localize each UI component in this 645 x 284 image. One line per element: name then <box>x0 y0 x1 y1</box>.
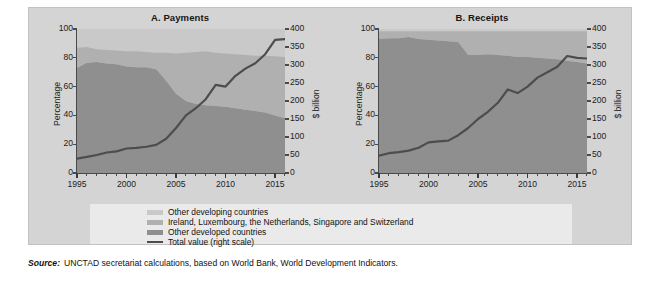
y-axis-tick-mark <box>375 86 379 87</box>
x-axis-tick-label: 2005 <box>468 179 487 189</box>
y-axis-tick-label: 60 <box>365 82 375 91</box>
chart-panel-a: A. Payments Percentage $ billion 0204060… <box>29 8 331 200</box>
area-series <box>379 29 587 31</box>
x-axis-major-tick <box>378 173 379 178</box>
x-axis-tick-label: 2015 <box>266 179 285 189</box>
legend-line-swatch <box>147 241 163 243</box>
x-axis-minor-tick <box>156 173 157 176</box>
x-axis-major-tick <box>428 173 429 178</box>
y2-axis-tick-mark <box>587 64 591 65</box>
x-axis-minor-tick <box>517 173 518 176</box>
y2-axis-tick-mark <box>587 172 591 173</box>
y-axis-tick-label: 40 <box>63 110 73 119</box>
source-text: UNCTAD secretariat calculations, based o… <box>64 258 398 268</box>
legend-item: Total value (right scale) <box>147 238 413 247</box>
x-axis-major-tick <box>225 173 226 178</box>
y2-axis-tick-label: 0 <box>290 168 295 177</box>
y2-axis-tick-mark <box>285 100 289 101</box>
panel-a-y2-axis-title: $ billion <box>310 89 320 118</box>
y2-axis-tick-label: 0 <box>592 168 597 177</box>
x-axis-minor-tick <box>205 173 206 176</box>
x-axis-minor-tick <box>265 173 266 176</box>
panel-a-title: A. Payments <box>29 12 331 23</box>
x-axis-minor-tick <box>116 173 117 176</box>
x-axis-minor-tick <box>96 173 97 176</box>
y2-axis-tick-label: 200 <box>592 96 606 105</box>
panel-b-y-axis-title: Percentage <box>354 82 364 126</box>
x-axis-minor-tick <box>537 173 538 176</box>
y2-axis-tick-label: 300 <box>290 60 304 69</box>
x-axis-major-tick <box>76 173 77 178</box>
panel-a-plot-area: 0204060801000501001502002503003504001995… <box>76 29 285 174</box>
y2-axis-tick-label: 100 <box>290 132 304 141</box>
legend-color-swatch <box>147 230 163 236</box>
y-axis-tick-label: 100 <box>59 24 73 33</box>
y2-axis-tick-mark <box>285 28 289 29</box>
x-axis-tick-label: 1995 <box>67 179 86 189</box>
y2-axis-tick-mark <box>285 64 289 65</box>
x-axis-minor-tick <box>547 173 548 176</box>
x-axis-minor-tick <box>255 173 256 176</box>
panel-a-y-axis-title: Percentage <box>52 82 62 126</box>
panel-a-series-canvas <box>77 29 285 173</box>
y2-axis-tick-mark <box>285 46 289 47</box>
y2-axis-tick-mark <box>587 46 591 47</box>
panel-b-plot-area: 0204060801000501001502002503003504001995… <box>378 29 587 174</box>
x-axis-minor-tick <box>195 173 196 176</box>
y2-axis-tick-label: 150 <box>290 114 304 123</box>
y2-axis-tick-label: 400 <box>290 24 304 33</box>
x-axis-minor-tick <box>408 173 409 176</box>
legend-item: Other developing countries <box>147 208 413 217</box>
x-axis-minor-tick <box>458 173 459 176</box>
y2-axis-tick-mark <box>587 118 591 119</box>
legend-color-swatch <box>147 210 163 216</box>
y2-axis-tick-label: 350 <box>592 42 606 51</box>
x-axis-minor-tick <box>106 173 107 176</box>
panel-b-series-canvas <box>379 29 587 173</box>
y2-axis-tick-label: 50 <box>592 150 602 159</box>
x-axis-minor-tick <box>418 173 419 176</box>
y2-axis-tick-label: 350 <box>290 42 304 51</box>
legend-item: Other developed countries <box>147 228 413 237</box>
x-axis-tick-label: 2000 <box>117 179 136 189</box>
x-axis-minor-tick <box>388 173 389 176</box>
x-axis-major-tick <box>175 173 176 178</box>
x-axis-tick-label: 2010 <box>518 179 537 189</box>
x-axis-minor-tick <box>507 173 508 176</box>
y2-axis-tick-mark <box>587 100 591 101</box>
legend-item: Ireland, Luxembourg, the Netherlands, Si… <box>147 218 413 227</box>
x-axis-tick-label: 2000 <box>419 179 438 189</box>
x-axis-minor-tick <box>497 173 498 176</box>
y2-axis-tick-label: 300 <box>592 60 606 69</box>
y-axis-tick-label: 20 <box>365 139 375 148</box>
y-axis-tick-label: 80 <box>365 53 375 62</box>
y-axis-tick-mark <box>73 57 77 58</box>
source-label: Source: <box>28 258 60 268</box>
y-axis-tick-mark <box>73 28 77 29</box>
x-axis-minor-tick <box>284 173 285 176</box>
x-axis-minor-tick <box>586 173 587 176</box>
y-axis-tick-label: 40 <box>365 110 375 119</box>
y2-axis-tick-mark <box>587 136 591 137</box>
x-axis-minor-tick <box>398 173 399 176</box>
y2-axis-tick-mark <box>587 154 591 155</box>
y-axis-tick-label: 20 <box>63 139 73 148</box>
y-axis-tick-mark <box>375 28 379 29</box>
y-axis-tick-label: 100 <box>361 24 375 33</box>
legend-item-label: Other developed countries <box>168 228 266 237</box>
figure-container: A. Payments Percentage $ billion 0204060… <box>0 0 645 284</box>
y-axis-tick-mark <box>73 144 77 145</box>
x-axis-minor-tick <box>245 173 246 176</box>
x-axis-minor-tick <box>235 173 236 176</box>
x-axis-minor-tick <box>86 173 87 176</box>
x-axis-major-tick <box>274 173 275 178</box>
legend-item-label: Total value (right scale) <box>168 238 254 247</box>
y2-axis-tick-label: 200 <box>290 96 304 105</box>
legend-item-label: Other developing countries <box>168 208 268 217</box>
legend-color-swatch <box>147 220 163 226</box>
chart-legend: Other developing countriesIreland, Luxem… <box>90 204 572 244</box>
x-axis-minor-tick <box>185 173 186 176</box>
y2-axis-tick-mark <box>285 136 289 137</box>
x-axis-minor-tick <box>166 173 167 176</box>
x-axis-minor-tick <box>557 173 558 176</box>
